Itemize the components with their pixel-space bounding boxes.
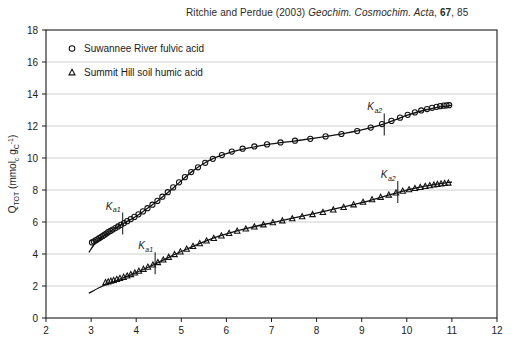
citation-authors: Ritchie and Perdue (2003)	[186, 7, 305, 18]
fit-curve-0	[89, 105, 452, 252]
x-tick-label: 2	[43, 325, 49, 336]
y-tick-label: 0	[32, 313, 38, 324]
y-tick-label: 18	[27, 25, 39, 36]
x-tick-label: 8	[314, 325, 320, 336]
y-axis-title: QTOT (mmolc gC-1)	[7, 135, 20, 214]
y-axis-title-text: QTOT (mmolc gC-1)	[7, 135, 20, 214]
x-tick-label: 9	[359, 325, 365, 336]
y-tick-label: 14	[27, 89, 39, 100]
legend-label: Summit Hill soil humic acid	[84, 67, 203, 78]
x-tick-label: 5	[179, 325, 185, 336]
chart-legend: Suwannee River fulvic acidSummit Hill so…	[69, 43, 204, 78]
y-tick-label: 12	[27, 121, 39, 132]
citation-journal: Geochim. Cosmochim. Acta	[308, 7, 434, 18]
ka-label: Ka2	[367, 101, 382, 114]
legend-entry-1: Summit Hill soil humic acid	[69, 67, 203, 78]
x-tick-label: 4	[133, 325, 139, 336]
ka-annotation: Ka2	[381, 169, 398, 203]
x-tick-label: 6	[224, 325, 230, 336]
y-tick-label: 8	[32, 185, 38, 196]
plot-svg: 024681012141618 23456789101112 Ka1Ka2Ka1…	[0, 0, 518, 342]
citation-line: Ritchie and Perdue (2003) Geochim. Cosmo…	[186, 7, 468, 18]
x-tick-label: 7	[269, 325, 275, 336]
y-tick-label: 2	[32, 281, 38, 292]
x-tick-label: 3	[88, 325, 94, 336]
ka-label: Ka2	[381, 169, 396, 182]
legend-label: Suwannee River fulvic acid	[84, 43, 204, 54]
x-tick-label: 12	[491, 325, 503, 336]
citation-page: 85	[457, 7, 468, 18]
citation-volume: 67	[440, 7, 451, 18]
x-axis-ticks: 23456789101112	[43, 318, 503, 336]
x-tick-label: 11	[447, 325, 458, 336]
chart-figure: Ritchie and Perdue (2003) Geochim. Cosmo…	[0, 0, 518, 342]
grid-lines	[46, 62, 497, 286]
y-axis-ticks: 024681012141618	[27, 25, 46, 324]
x-tick-label: 10	[401, 325, 413, 336]
ka-annotations: Ka1Ka2Ka1Ka2	[106, 101, 398, 274]
ka-label: Ka1	[106, 201, 121, 214]
legend-marker-triangle	[69, 69, 75, 75]
y-tick-label: 4	[32, 249, 38, 260]
y-tick-label: 6	[32, 217, 38, 228]
y-tick-label: 16	[27, 57, 39, 68]
legend-marker-circle	[69, 46, 75, 52]
y-tick-label: 10	[27, 153, 39, 164]
ka-label: Ka1	[138, 240, 153, 253]
legend-entry-0: Suwannee River fulvic acid	[69, 43, 204, 54]
